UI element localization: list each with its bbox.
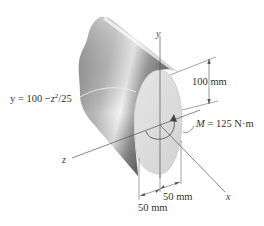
cross-section-face (134, 70, 182, 174)
moment-leader (183, 126, 194, 133)
equation-lhs: y = 100 − (10, 93, 51, 104)
z-axis-label: z (62, 155, 66, 165)
curve-equation: y = 100 −z2/25 (10, 94, 72, 105)
y-axis-label: y (156, 29, 160, 39)
beam-diagram (0, 0, 264, 226)
half-width-right-label: 50 mm (163, 192, 192, 203)
moment-label: M = 125 N·m (196, 119, 254, 130)
equation-rhs: /25 (58, 93, 71, 104)
moment-symbol: M (196, 118, 205, 129)
moment-value: = 125 N·m (207, 118, 253, 129)
half-width-left-label: 50 mm (138, 203, 167, 214)
x-axis-label: x (226, 192, 230, 202)
height-dimension-label: 100 mm (192, 77, 227, 88)
